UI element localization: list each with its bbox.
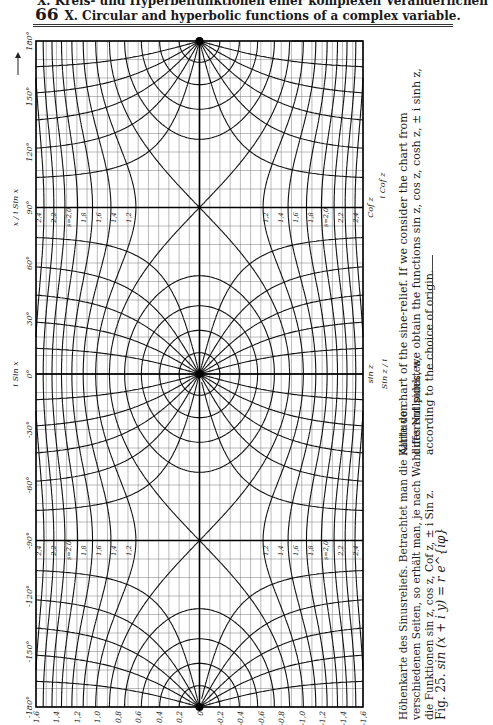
- y-tick-label: 30°: [25, 311, 34, 325]
- modulus-label: 1,8: [80, 212, 88, 222]
- figure-formula: sin (x + i y) = r e^{iφ}: [434, 528, 448, 670]
- y-axis-tick-labels: 180°150°120°90°60°30°0°-30°-60°-90°-120°…: [25, 31, 34, 718]
- modulus-label: 1,8: [80, 545, 88, 555]
- x-tick-label: -0,6: [257, 711, 266, 725]
- x-tick-label: 0,6: [134, 711, 143, 723]
- label-right-sin: sin z: [366, 364, 375, 383]
- caption-de-line-3: die Funktionen sin z, cos z, Cof z, ± i …: [423, 357, 436, 720]
- caption-de-line-1: Höhenkarte des Sinusreliefs. Betrachtet …: [397, 357, 410, 720]
- label-right-i-cosh: i Cof z: [378, 172, 387, 199]
- modulus-label: 1,2: [262, 545, 270, 555]
- modulus-label: 2,2: [337, 545, 345, 556]
- modulus-label: 1,4: [110, 545, 118, 555]
- modulus-label: s=2,0: [65, 541, 73, 560]
- x-tick-label: -1,4: [339, 711, 348, 725]
- label-left-90: x / i Sin x: [11, 188, 20, 226]
- modulus-label: s=2,0: [322, 541, 330, 560]
- zero-point-marker: [196, 370, 204, 378]
- modulus-label: 2,4: [35, 545, 43, 556]
- modulus-label: 2,4: [352, 545, 360, 556]
- x-tick-label: 0,8: [114, 711, 123, 723]
- x-tick-label: 1,2: [73, 711, 82, 723]
- modulus-label: 1,4: [110, 212, 118, 222]
- y-tick-label: 120°: [25, 142, 34, 161]
- modulus-label: 2,2: [50, 212, 58, 223]
- zero-point-marker: [196, 37, 204, 45]
- x-tick-label: -1,6: [359, 711, 368, 725]
- x-tick-label: -0,8: [277, 711, 286, 725]
- x-tick-label: 0: [196, 711, 205, 716]
- modulus-label: 1,8: [307, 212, 315, 222]
- modulus-label: 1,4: [277, 212, 285, 222]
- y-tick-label: 150°: [25, 87, 34, 106]
- zero-point-marker: [196, 703, 204, 711]
- x-tick-label: -0,2: [216, 711, 225, 725]
- figure-label-block: Fig. 25. sin (x + i y) = r e^{iφ}: [435, 528, 448, 720]
- y-tick-label: 90°: [25, 200, 34, 214]
- modulus-label: 1,6: [95, 212, 103, 222]
- y-tick-label: -30°: [25, 421, 34, 438]
- modulus-label: 2,4: [352, 212, 360, 223]
- label-left-0: i Sin x: [11, 361, 20, 387]
- label-right-cosh: Cof z: [366, 196, 375, 217]
- modulus-label: 1,2: [262, 212, 270, 222]
- modulus-label: s=2,0: [65, 208, 73, 227]
- x-tick-label: 1,6: [32, 711, 41, 723]
- x-tick-label: -1,2: [318, 711, 327, 725]
- modulus-label: 1,6: [95, 545, 103, 555]
- figure-caption-german: Höhenkarte des Sinusreliefs. Betrachtet …: [397, 357, 436, 720]
- modulus-label: 2,2: [50, 545, 58, 556]
- y-tick-label: -60°: [25, 477, 34, 494]
- figure-label: Fig. 25.: [434, 673, 448, 720]
- caption-divider: [432, 255, 433, 370]
- label-right-sinh-over-i: Sin z / i: [380, 358, 389, 389]
- y-tick-label: -150°: [25, 641, 34, 663]
- y-tick-label: 180°: [25, 31, 34, 50]
- modulus-label: 1,8: [307, 545, 315, 555]
- y-tick-label: -120°: [25, 585, 34, 607]
- modulus-label: 1,2: [125, 212, 133, 222]
- modulus-label: 2,2: [337, 212, 345, 223]
- x-tick-label: 1,0: [93, 711, 102, 723]
- y-tick-label: -90°: [25, 532, 34, 549]
- caption-de-line-2: verschiedenen Seiten, so erhält man, je …: [410, 357, 423, 720]
- arrowhead-icon: [15, 52, 21, 58]
- modulus-label: 1,4: [277, 545, 285, 555]
- modulus-label: 1,2: [125, 545, 133, 555]
- modulus-label: 2,4: [35, 212, 43, 223]
- x-tick-label: -1,0: [298, 711, 307, 725]
- y-tick-label: 60°: [25, 256, 34, 270]
- x-tick-label: 1,4: [52, 711, 61, 723]
- x-tick-label: 0,4: [155, 711, 164, 723]
- x-tick-label: -0,4: [236, 711, 245, 725]
- x-axis-tick-labels: 1,61,41,21,00,80,60,40,20-0,2-0,4-0,6-0,…: [32, 711, 368, 725]
- modulus-label: 1,6: [292, 545, 300, 555]
- y-tick-label: 0°: [25, 369, 34, 378]
- x-tick-label: 0,2: [175, 711, 184, 723]
- modulus-label: 1,6: [292, 212, 300, 222]
- modulus-label: s=2,0: [322, 208, 330, 227]
